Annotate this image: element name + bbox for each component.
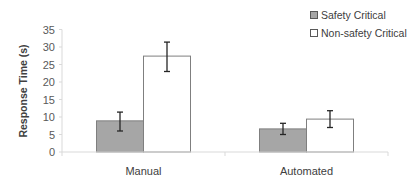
legend: Safety Critical Non-safety Critical [310, 6, 407, 42]
bars [97, 42, 354, 152]
y-tick-label: 20 [43, 76, 55, 88]
y-tick-label: 5 [49, 129, 55, 141]
y-tick-label: 10 [43, 111, 55, 123]
x-category-label: Automated [280, 165, 333, 177]
y-tick-label: 30 [43, 41, 55, 53]
y-tick-label: 15 [43, 94, 55, 106]
legend-label-safety: Safety Critical [321, 9, 386, 21]
y-axis: 05101520253035 [43, 24, 62, 159]
x-axis: ManualAutomated [62, 152, 388, 177]
x-category-label: Manual [125, 165, 161, 177]
legend-swatch-nonsafety [310, 29, 318, 37]
y-tick-label: 0 [49, 146, 55, 158]
legend-item-nonsafety: Non-safety Critical [310, 24, 407, 42]
y-axis-label: Response Time (s) [17, 44, 29, 137]
y-tick-label: 35 [43, 24, 55, 36]
legend-item-safety: Safety Critical [310, 6, 407, 24]
y-tick-label: 25 [43, 59, 55, 71]
legend-label-nonsafety: Non-safety Critical [321, 27, 407, 39]
legend-swatch-safety [310, 11, 318, 19]
